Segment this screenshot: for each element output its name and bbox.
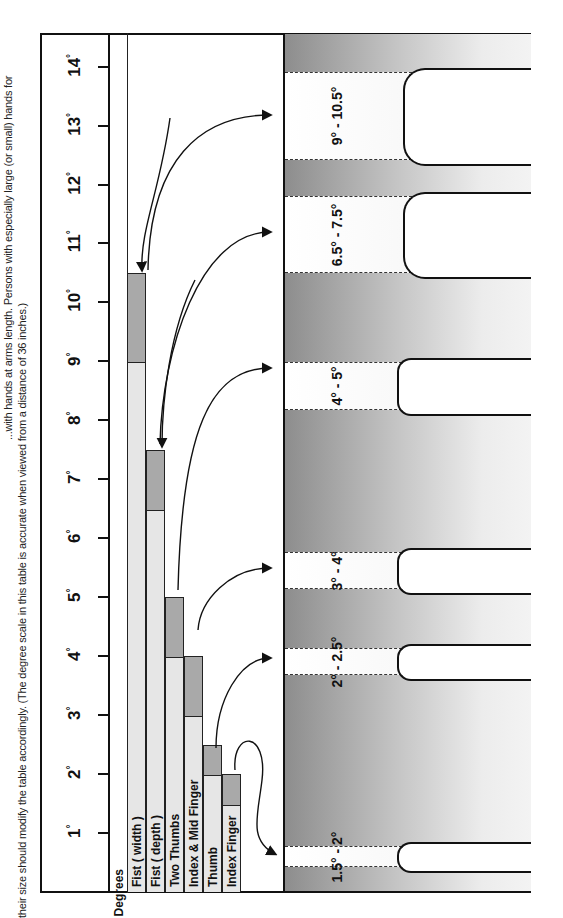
arrow-fist-width: [142, 118, 170, 270]
hand-fist-width-icon: [403, 68, 531, 166]
range-label: 6.5° - 7.5°: [329, 203, 345, 266]
hand-illustration-panel: 9° - 10.5°6.5° - 7.5°4° - 5°3° - 4°2° - …: [283, 34, 531, 891]
arrow-index-mid: [198, 568, 270, 630]
range-label: 1.5° - 2°: [329, 831, 345, 882]
range-label: 9° - 10.5°: [329, 87, 345, 146]
range-label: 4° - 5°: [329, 366, 345, 405]
hand-index-finger-icon: [397, 842, 531, 873]
arrow-two-thumbs: [178, 368, 270, 590]
arrow-index-finger: [235, 741, 275, 854]
arrow-fist-depth-down: [162, 280, 195, 446]
hand-thumb-icon: [397, 644, 531, 681]
range-label: 3° - 4°: [329, 551, 345, 590]
hand-index-mid-finger-icon: [397, 548, 531, 595]
hand-two-thumbs-icon: [397, 358, 531, 416]
arrow-thumb: [216, 658, 270, 748]
hand-fist-depth-icon: [403, 192, 531, 279]
arrow-fist-depth: [160, 232, 270, 444]
range-label: 2° - 2.5°: [329, 636, 345, 687]
